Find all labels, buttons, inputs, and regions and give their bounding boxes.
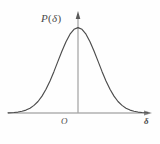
y-axis-arrowhead-icon xyxy=(76,11,81,19)
y-axis-label-p: P xyxy=(41,12,48,24)
plot-canvas xyxy=(0,0,160,144)
x-axis-label: δ xyxy=(144,117,149,126)
y-axis-label: P(δ) xyxy=(41,13,61,24)
gaussian-distribution-figure: P(δ) O δ xyxy=(0,0,160,144)
origin-label: O xyxy=(61,117,68,126)
y-axis-label-paren-close: ) xyxy=(57,12,61,24)
